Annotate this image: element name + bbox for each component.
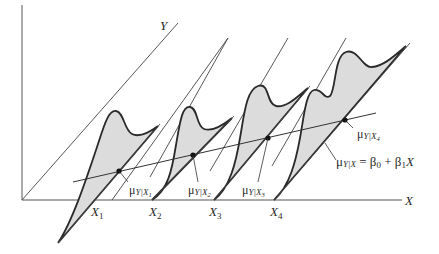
x-axis-label: X [404,193,414,208]
mean-label-4: μY|X4 [357,127,380,142]
leader-line-regression [325,143,336,160]
x-tick-label-4: X4 [269,204,283,221]
x-tick-label-1: X1 [90,204,103,221]
distribution-slice-4 [274,43,410,200]
regression-equation: μY|X = β0 + β1X [336,154,415,170]
leader-line-4 [345,120,353,128]
mean-label-1: μY|X1 [129,183,152,198]
distribution-slice-1 [58,111,160,243]
x-tick-label-2: X2 [148,204,161,221]
mean-label-3: μY|X3 [242,183,265,198]
mean-label-2: μY|X2 [188,183,211,198]
leader-line-1 [119,171,128,182]
x-tick-label-3: X3 [208,204,222,221]
y-axis-label: Y [160,18,169,33]
leader-line-2 [193,155,198,182]
distribution-slice-3 [214,86,310,200]
regression-diagram: μY|X1 μY|X2 μY|X3 μY|X4 μY|X = β0 + β1X … [0,0,439,254]
